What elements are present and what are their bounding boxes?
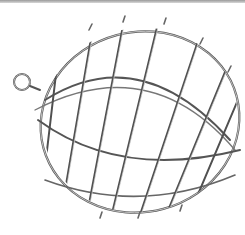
wire-cage-photo (0, 0, 245, 235)
wire-cage (14, 9, 245, 235)
